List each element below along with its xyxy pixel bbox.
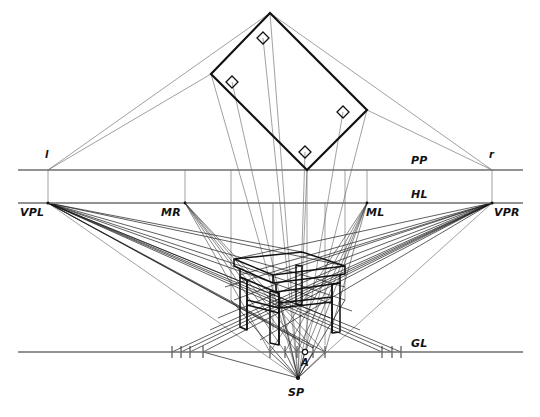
perspective-construction-drawing	[0, 0, 540, 417]
sight-ray-leg-c	[298, 112, 343, 378]
plan-edge-ext-left	[48, 74, 211, 170]
label-station-point: SP	[288, 387, 304, 398]
label-horizon-line: HL	[411, 189, 428, 200]
plan-edge-ext-left-b	[48, 13, 270, 170]
label-point-a: A	[301, 358, 309, 368]
mr-marker	[184, 202, 187, 205]
ml-marker	[366, 202, 369, 205]
diagram-canvas: PP HL GL VPL VPR MR ML SP A l r	[0, 0, 540, 417]
label-right-trace: r	[489, 150, 494, 160]
label-picture-plane: PP	[411, 155, 428, 166]
point-a-marker	[302, 349, 307, 354]
plan-edge-ext-right	[367, 110, 492, 170]
vpl-marker	[46, 201, 49, 204]
label-left-trace: l	[45, 150, 49, 160]
plan-edge-ext-right-b	[270, 13, 492, 170]
label-measuring-point-right: MR	[161, 207, 181, 218]
vpr-marker	[490, 201, 493, 204]
sight-ray-back	[270, 13, 298, 378]
station-point-marker	[296, 376, 300, 380]
label-vanishing-point-right: VPR	[494, 207, 520, 218]
label-vanishing-point-left: VPL	[20, 207, 44, 218]
label-ground-line: GL	[411, 338, 427, 349]
label-measuring-point-left: ML	[366, 207, 384, 218]
